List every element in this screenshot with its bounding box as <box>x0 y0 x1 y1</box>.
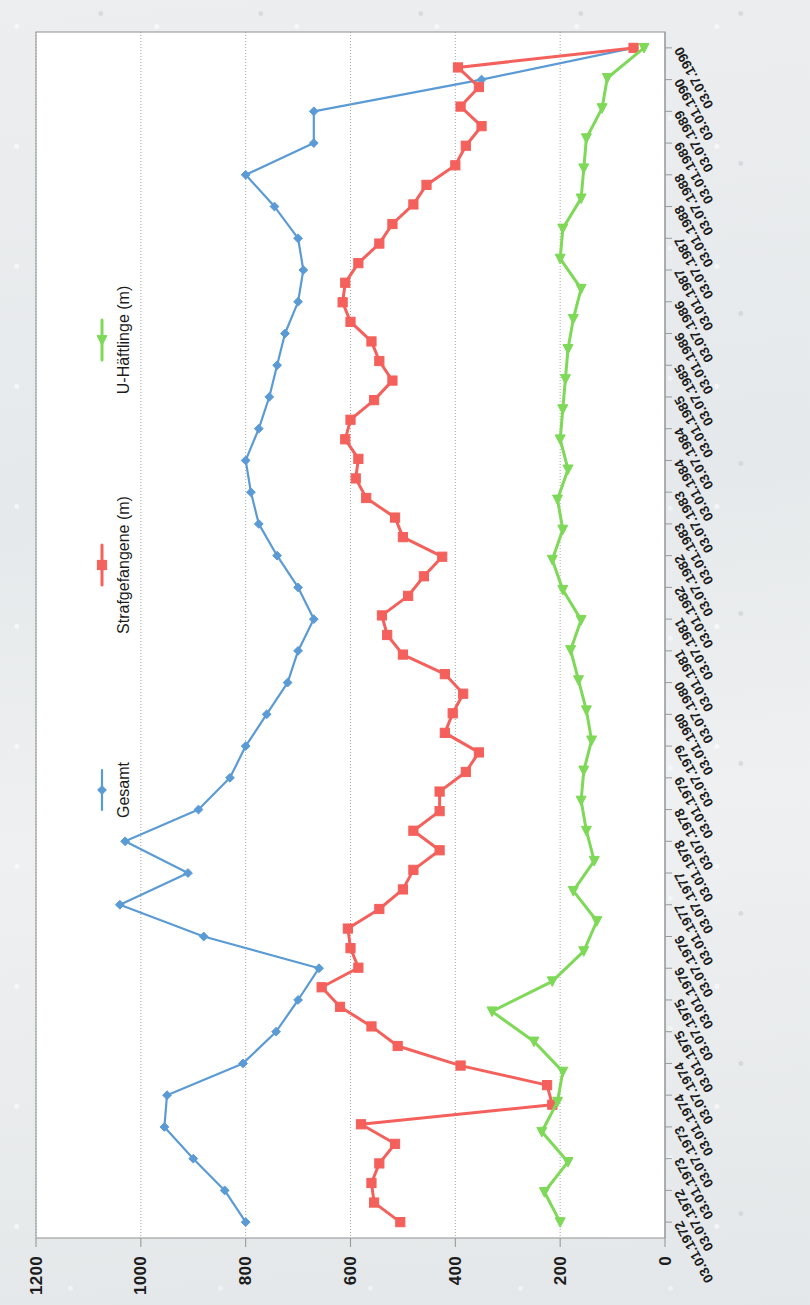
data-point-marker <box>346 944 355 953</box>
data-point-marker <box>396 1218 405 1227</box>
data-point-marker <box>451 161 460 170</box>
data-point-marker <box>440 670 449 679</box>
data-point-marker <box>459 689 468 698</box>
data-point-marker <box>435 846 444 855</box>
data-point-marker <box>346 415 355 424</box>
data-point-marker <box>367 337 376 346</box>
data-point-marker <box>438 552 447 561</box>
data-point-marker <box>453 63 462 72</box>
data-point-marker <box>461 141 470 150</box>
data-point-marker <box>542 1081 551 1090</box>
data-point-marker <box>456 1061 465 1070</box>
data-point-marker <box>419 572 428 581</box>
chart-container: 12001000800600400200003.01.197203.07.197… <box>0 0 810 1305</box>
category-axis: 03.01.197203.07.197203.01.197303.07.1973… <box>665 44 716 1285</box>
data-point-marker <box>388 376 397 385</box>
data-point-marker <box>422 180 431 189</box>
data-point-marker <box>409 865 418 874</box>
data-point-marker <box>477 122 486 131</box>
data-point-marker <box>393 1041 402 1050</box>
data-point-marker <box>377 611 386 620</box>
value-axis-label: 0 <box>656 1256 675 1266</box>
data-point-marker <box>354 259 363 268</box>
data-point-marker <box>335 1002 344 1011</box>
data-point-marker <box>97 560 106 569</box>
data-point-marker <box>354 963 363 972</box>
legend-item-gesamt[interactable]: Gesamt <box>98 761 133 818</box>
data-point-marker <box>398 533 407 542</box>
data-point-marker <box>367 1022 376 1031</box>
legend-label: Gesamt <box>115 761 132 818</box>
data-point-marker <box>375 1159 384 1168</box>
data-point-marker <box>388 219 397 228</box>
value-axis: 120010008006004002000 <box>27 1238 675 1295</box>
value-axis-label: 1200 <box>27 1256 46 1295</box>
data-point-marker <box>375 904 384 913</box>
data-point-marker <box>448 709 457 718</box>
data-point-marker <box>338 298 347 307</box>
data-point-marker <box>383 630 392 639</box>
data-point-marker <box>474 82 483 91</box>
data-point-marker <box>367 1178 376 1187</box>
data-point-marker <box>369 396 378 405</box>
value-axis-label: 800 <box>236 1256 255 1285</box>
data-point-marker <box>375 239 384 248</box>
value-axis-label: 400 <box>446 1256 465 1285</box>
data-point-marker <box>398 885 407 894</box>
data-point-marker <box>317 983 326 992</box>
data-point-marker <box>435 787 444 796</box>
value-axis-label: 1000 <box>131 1256 150 1295</box>
data-point-marker <box>369 1198 378 1207</box>
data-point-marker <box>409 826 418 835</box>
value-axis-label: 200 <box>551 1256 570 1285</box>
legend-label: Strafgefangene (m) <box>115 496 132 634</box>
data-point-marker <box>629 43 638 52</box>
data-point-marker <box>390 513 399 522</box>
data-point-marker <box>356 1120 365 1129</box>
data-point-marker <box>362 493 371 502</box>
data-point-marker <box>435 807 444 816</box>
data-point-marker <box>440 728 449 737</box>
data-point-marker <box>456 102 465 111</box>
data-point-marker <box>404 591 413 600</box>
data-point-marker <box>390 1139 399 1148</box>
data-point-marker <box>341 435 350 444</box>
data-point-marker <box>474 748 483 757</box>
data-point-marker <box>409 200 418 209</box>
data-point-marker <box>346 317 355 326</box>
data-point-marker <box>375 356 384 365</box>
legend-label: U-Häftlinge (m) <box>115 286 132 394</box>
data-point-marker <box>343 924 352 933</box>
rotated-line-chart: 12001000800600400200003.01.197203.07.197… <box>0 0 810 1305</box>
value-axis-label: 600 <box>341 1256 360 1285</box>
data-point-marker <box>351 474 360 483</box>
data-point-marker <box>354 454 363 463</box>
data-point-marker <box>461 767 470 776</box>
data-point-marker <box>398 650 407 659</box>
data-point-marker <box>341 278 350 287</box>
